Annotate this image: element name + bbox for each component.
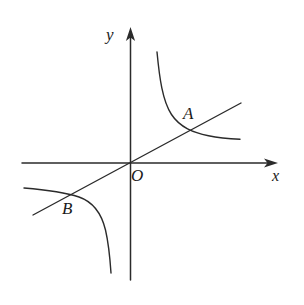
figure-canvas — [0, 0, 304, 305]
origin-label: O — [131, 167, 143, 184]
y-axis-label: y — [106, 26, 114, 43]
math-figure: y x O A B — [0, 0, 304, 305]
x-axis-label: x — [272, 168, 279, 184]
point-a-label: A — [183, 105, 193, 122]
point-b-label: B — [62, 200, 72, 217]
